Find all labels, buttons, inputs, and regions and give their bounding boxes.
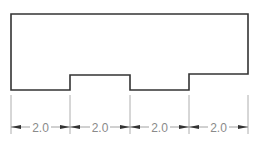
part-profile-outline bbox=[11, 14, 248, 90]
dimension-label: 2.0 bbox=[210, 121, 227, 135]
arrowhead-right-icon bbox=[179, 125, 189, 129]
arrowhead-left-icon bbox=[130, 125, 140, 129]
dimension-4: 2.0 bbox=[189, 121, 248, 135]
arrowhead-right-icon bbox=[120, 125, 130, 129]
dimension-label: 2.0 bbox=[92, 121, 109, 135]
dimension-2: 2.0 bbox=[70, 121, 130, 135]
arrowhead-left-icon bbox=[11, 125, 21, 129]
arrowhead-left-icon bbox=[189, 125, 199, 129]
dimension-3: 2.0 bbox=[130, 121, 189, 135]
dimension-label: 2.0 bbox=[151, 121, 168, 135]
arrowhead-right-icon bbox=[60, 125, 70, 129]
technical-drawing: 2.0 2.0 2.0 2.0 bbox=[0, 0, 262, 146]
dimension-1: 2.0 bbox=[11, 121, 70, 135]
arrowhead-left-icon bbox=[70, 125, 80, 129]
arrowhead-right-icon bbox=[238, 125, 248, 129]
dimension-label: 2.0 bbox=[32, 121, 49, 135]
